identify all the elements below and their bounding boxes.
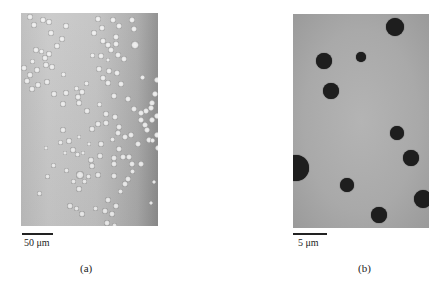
droplet bbox=[91, 30, 97, 36]
droplet bbox=[131, 41, 139, 49]
droplet bbox=[102, 208, 108, 214]
droplet bbox=[54, 43, 60, 49]
droplet bbox=[86, 174, 91, 179]
droplet bbox=[44, 79, 50, 85]
scale-bar-label-b: 5 μm bbox=[298, 237, 319, 248]
droplet bbox=[135, 141, 141, 147]
droplet bbox=[89, 163, 95, 169]
droplet bbox=[82, 179, 87, 184]
droplet bbox=[111, 93, 117, 99]
droplet bbox=[110, 137, 115, 142]
droplet bbox=[152, 180, 156, 184]
droplet bbox=[37, 191, 42, 196]
droplet bbox=[98, 141, 104, 147]
droplet bbox=[77, 135, 81, 139]
droplet bbox=[104, 220, 110, 226]
droplet bbox=[87, 142, 91, 146]
droplet bbox=[33, 47, 39, 53]
droplet bbox=[140, 75, 145, 80]
droplet bbox=[34, 67, 40, 73]
droplet bbox=[99, 25, 105, 31]
droplet bbox=[154, 132, 158, 138]
droplet bbox=[21, 65, 27, 71]
caption-b: (b) bbox=[358, 262, 371, 274]
droplet bbox=[27, 72, 33, 78]
particle bbox=[386, 18, 404, 36]
droplet bbox=[44, 146, 48, 150]
droplet bbox=[90, 53, 95, 58]
droplet bbox=[48, 30, 54, 36]
droplet bbox=[74, 86, 79, 91]
droplet bbox=[66, 138, 72, 144]
droplet bbox=[97, 153, 103, 159]
droplet bbox=[131, 106, 137, 112]
droplet bbox=[142, 122, 148, 128]
scale-bar-label-a: 50 μm bbox=[24, 237, 50, 248]
droplet bbox=[152, 91, 158, 97]
droplet bbox=[49, 64, 55, 70]
particle bbox=[371, 207, 387, 223]
droplet bbox=[130, 169, 135, 174]
droplet bbox=[143, 108, 149, 114]
droplet bbox=[128, 132, 134, 138]
droplet bbox=[63, 90, 69, 96]
droplet bbox=[149, 201, 153, 205]
droplet bbox=[75, 152, 80, 157]
particle bbox=[403, 150, 419, 166]
micrograph-panel-b bbox=[293, 14, 429, 228]
droplet bbox=[109, 211, 115, 217]
droplet bbox=[150, 138, 155, 143]
droplet bbox=[146, 137, 152, 143]
droplet bbox=[118, 81, 124, 87]
droplet bbox=[71, 179, 76, 184]
particle bbox=[390, 126, 404, 140]
droplet bbox=[111, 155, 117, 161]
droplet bbox=[131, 26, 137, 32]
droplet bbox=[106, 58, 110, 62]
droplet bbox=[29, 86, 35, 92]
micrograph-panel-a bbox=[21, 13, 158, 226]
droplet bbox=[155, 145, 158, 151]
particle bbox=[356, 52, 366, 62]
droplet bbox=[129, 17, 135, 23]
particle bbox=[293, 155, 309, 181]
droplet bbox=[79, 89, 85, 95]
droplet bbox=[112, 223, 117, 227]
droplet bbox=[108, 47, 114, 53]
droplet bbox=[103, 111, 109, 117]
scale-bar-b bbox=[293, 233, 327, 235]
droplet bbox=[144, 127, 150, 133]
droplet bbox=[129, 161, 135, 167]
droplet bbox=[121, 56, 127, 62]
droplet bbox=[43, 62, 49, 68]
droplet bbox=[40, 17, 46, 23]
droplet bbox=[89, 126, 95, 132]
droplet bbox=[111, 173, 117, 179]
droplet bbox=[60, 127, 66, 133]
droplet bbox=[67, 203, 73, 209]
droplet bbox=[27, 14, 33, 20]
droplet bbox=[45, 174, 50, 179]
droplet bbox=[113, 203, 119, 209]
droplet bbox=[105, 80, 111, 86]
droplet bbox=[79, 211, 85, 217]
droplet bbox=[122, 134, 128, 140]
droplet bbox=[154, 77, 158, 83]
droplet bbox=[125, 96, 131, 102]
scale-bar-a bbox=[22, 233, 53, 235]
droplet bbox=[39, 49, 44, 54]
droplet bbox=[46, 51, 52, 57]
droplet bbox=[76, 100, 82, 106]
droplet bbox=[75, 94, 81, 100]
droplet bbox=[35, 82, 41, 88]
droplet bbox=[116, 23, 122, 29]
droplet bbox=[76, 171, 84, 179]
droplet bbox=[111, 161, 117, 167]
droplet bbox=[120, 154, 126, 160]
droplet bbox=[122, 181, 128, 187]
droplet bbox=[46, 19, 52, 25]
droplet bbox=[112, 114, 118, 120]
particle bbox=[316, 53, 332, 69]
droplet bbox=[84, 108, 90, 114]
droplet bbox=[70, 147, 76, 153]
